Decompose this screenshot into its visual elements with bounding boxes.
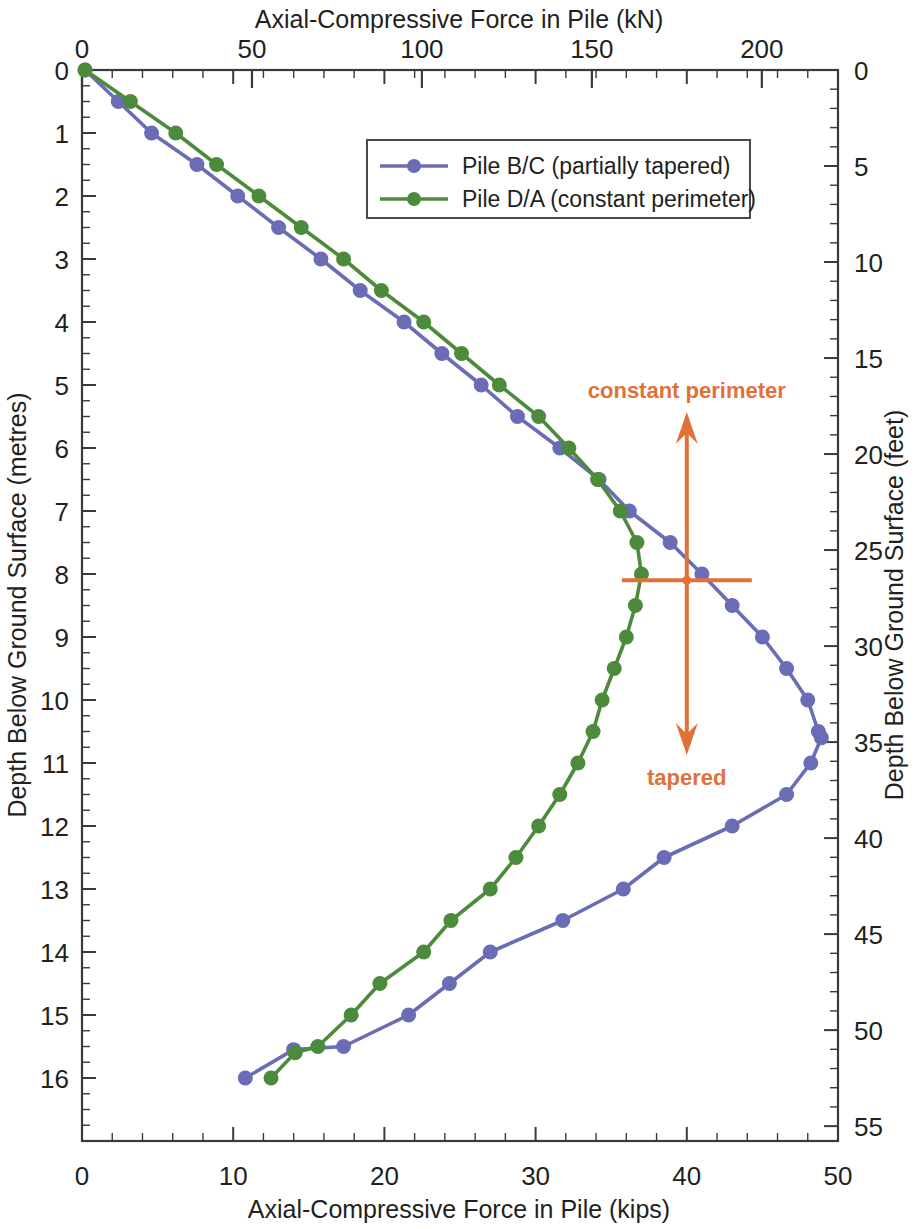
data-point (607, 661, 622, 676)
data-point (209, 157, 224, 172)
data-point (336, 252, 351, 267)
data-point (416, 315, 431, 330)
data-point (168, 126, 183, 141)
data-point (78, 63, 93, 78)
chart-legend: Pile B/C (partially tapered) Pile D/A (c… (367, 140, 756, 218)
annotation-label-constant-perimeter: constant perimeter (588, 378, 786, 403)
y-tick-label-left: 10 (40, 686, 69, 716)
y-tick-label-right: 25 (854, 536, 883, 566)
data-point (508, 850, 523, 865)
y-tick-label-left: 2 (55, 182, 69, 212)
data-point (238, 1071, 253, 1086)
data-point (570, 756, 585, 771)
data-point (531, 819, 546, 834)
y-tick-label-left: 4 (55, 308, 69, 338)
legend-swatch-marker-green (407, 192, 421, 206)
y-tick-label-right: 45 (854, 920, 883, 950)
data-point (628, 598, 643, 613)
plot-frame (82, 70, 838, 1141)
data-point (264, 1071, 279, 1086)
y-tick-label-left: 15 (40, 1001, 69, 1031)
data-point (510, 409, 525, 424)
x-tick-label-top: 100 (400, 34, 443, 64)
y-tick-label-left: 1 (55, 119, 69, 149)
y-tick-label-left: 6 (55, 434, 69, 464)
data-point (189, 157, 204, 172)
data-point (123, 94, 138, 109)
y-tick-label-left: 14 (40, 938, 69, 968)
y-tick-label-right: 10 (854, 248, 883, 278)
data-point (800, 693, 815, 708)
data-point (552, 787, 567, 802)
data-point (492, 378, 507, 393)
legend-swatch-marker-blue (407, 159, 421, 173)
depth-force-profile-chart: Axial-Compressive Force in Pile (kN) Axi… (0, 0, 919, 1229)
y-tick-label-left: 9 (55, 623, 69, 653)
data-point (442, 976, 457, 991)
data-point (616, 882, 631, 897)
data-point (663, 535, 678, 550)
y-tick-label-left: 11 (42, 749, 69, 779)
y-tick-label-left: 16 (40, 1064, 69, 1094)
data-point (619, 630, 634, 645)
data-point (779, 661, 794, 676)
x-tick-label-top: 150 (570, 34, 613, 64)
data-point (271, 220, 286, 235)
x-tick-label-top: 200 (740, 34, 783, 64)
right-axis-title: Depth Below Ground Surface (feet) (880, 410, 908, 800)
data-point (586, 724, 601, 739)
data-point (561, 441, 576, 456)
data-point (294, 220, 309, 235)
annotation-label-tapered: tapered (647, 765, 726, 790)
data-point (555, 913, 570, 928)
legend-label-pile-da: Pile D/A (constant perimeter) (462, 186, 756, 212)
left-axis-title: Depth Below Ground Surface (metres) (3, 392, 31, 817)
data-point (288, 1045, 303, 1060)
data-point (531, 409, 546, 424)
y-tick-label-left: 12 (40, 812, 69, 842)
data-point (483, 882, 498, 897)
y-tick-label-right: 30 (854, 632, 883, 662)
data-point (629, 535, 644, 550)
x-tick-label-bottom: 50 (824, 1161, 853, 1191)
chart-figure: Axial-Compressive Force in Pile (kN) Axi… (0, 0, 919, 1229)
data-point (725, 598, 740, 613)
bottom-axis-title: Axial-Compressive Force in Pile (kips) (248, 1195, 670, 1223)
data-point (454, 346, 469, 361)
data-point (595, 693, 610, 708)
data-point (251, 189, 266, 204)
data-point (590, 472, 605, 487)
data-point (344, 1008, 359, 1023)
data-point (657, 850, 672, 865)
data-point (803, 756, 818, 771)
x-tick-label-top: 50 (237, 34, 266, 64)
data-point (313, 252, 328, 267)
x-tick-label-top: 0 (75, 34, 89, 64)
data-point (474, 378, 489, 393)
data-point (814, 730, 829, 745)
data-point (755, 630, 770, 645)
y-tick-label-right: 15 (854, 344, 883, 374)
data-point (372, 976, 387, 991)
x-tick-label-bottom: 10 (219, 1161, 248, 1191)
y-tick-label-left: 3 (55, 245, 69, 275)
y-tick-label-left: 7 (55, 497, 69, 527)
y-tick-label-right: 35 (854, 728, 883, 758)
data-point (374, 283, 389, 298)
y-tick-label-right: 5 (854, 152, 868, 182)
data-point (443, 913, 458, 928)
y-tick-label-right: 50 (854, 1016, 883, 1046)
annotations-layer: constant perimetertapered (588, 378, 786, 790)
x-tick-label-bottom: 0 (75, 1161, 89, 1191)
y-tick-label-right: 20 (854, 440, 883, 470)
data-point (483, 945, 498, 960)
data-point (144, 126, 159, 141)
data-point (310, 1039, 325, 1054)
data-point (779, 787, 794, 802)
data-point (434, 346, 449, 361)
data-point (353, 283, 368, 298)
y-tick-label-right: 0 (854, 56, 868, 86)
series-line (85, 70, 641, 1078)
y-tick-label-left: 8 (55, 560, 69, 590)
data-point (416, 945, 431, 960)
